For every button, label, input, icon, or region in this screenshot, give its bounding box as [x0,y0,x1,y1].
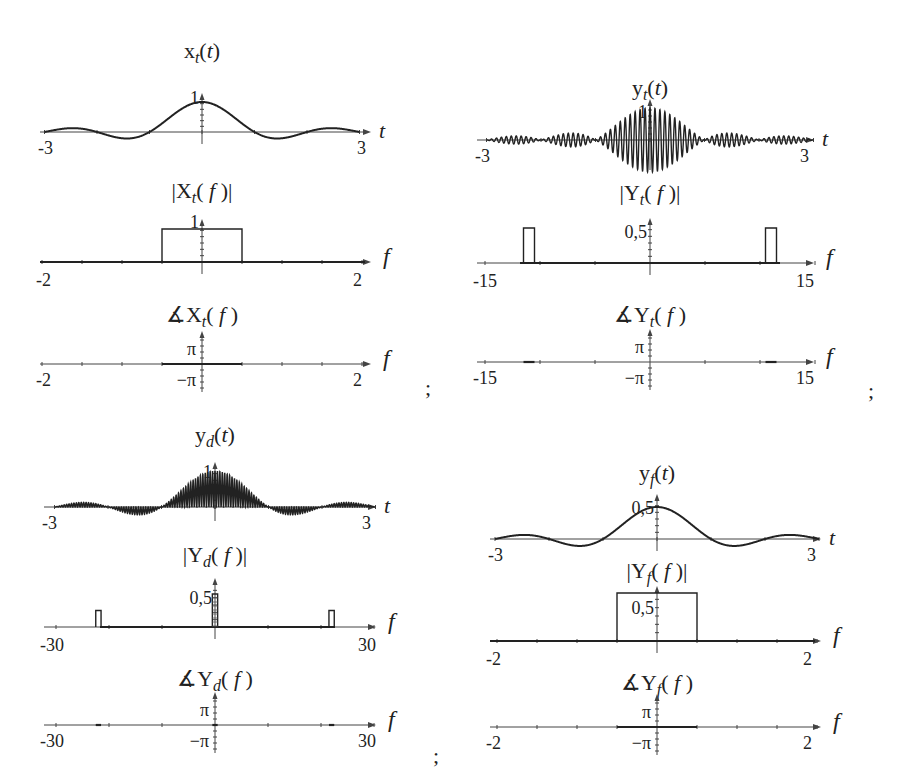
phase-neg-label: −π [632,733,651,753]
axis-arrow-icon [655,586,660,593]
axis-var-label: f [383,243,393,269]
range-max-label: 15 [796,271,814,291]
magnitude-plot-title: |Yd( f )| [183,542,247,570]
axis-arrow-icon [648,99,653,106]
axis-var-label: t [384,493,391,518]
axis-arrow-icon [648,329,653,336]
axis-arrow-icon [368,722,376,728]
magnitude-plot-title: |Yt( f )| [620,180,681,208]
range-max-label: 3 [362,513,371,533]
axis-var-label: t [379,118,386,143]
axis-var-label: f [383,345,393,371]
range-max-label: 30 [358,635,376,655]
range-min-label: -3 [38,138,53,158]
range-min-label: -2 [486,733,501,753]
phase-pos-label: π [642,702,651,722]
phase-plot-title: ∡Yd( f ) [177,666,253,694]
peak-value-label: 1 [638,102,647,122]
axis-arrow-icon [363,129,371,135]
separator-semicolon: ; [433,743,439,768]
axis-arrow-icon [368,624,376,630]
peak-value-label: 1 [190,88,199,108]
axis-var-label: f [826,244,836,270]
axis-arrow-icon [655,494,660,501]
axis-arrow-icon [213,462,218,469]
range-max-label: 2 [353,370,362,390]
phase-plot-title: ∡Yt( f ) [614,302,686,330]
peak-value-label: 0,5 [632,598,655,618]
range-max-label: 2 [803,733,812,753]
range-min-label: -2 [36,370,51,390]
separator-semicolon: ; [425,375,431,400]
axis-var-label: f [388,706,398,732]
range-min-label: -2 [36,270,51,290]
axis-arrow-icon [200,331,205,338]
range-max-label: 3 [357,138,366,158]
time-plot-title: yf(t) [639,460,675,489]
range-min-label: -3 [475,146,490,166]
separator-semicolon: ; [868,378,874,403]
spectrum-pulse [96,611,101,628]
panel-yt: yt(t)1-33t|Yt( f )|0,5-1515f∡Yt( f )π−π-… [473,75,874,403]
range-max-label: 30 [358,731,376,751]
range-max-label: 2 [353,270,362,290]
axis-arrow-icon [648,218,653,225]
range-min-label: -15 [473,368,497,388]
phase-pos-label: π [635,337,644,357]
range-max-label: 2 [803,649,812,669]
peak-value-label: 1 [190,212,199,232]
peak-value-label: 1 [203,462,212,482]
phase-neg-label: −π [625,368,644,388]
time-plot-title: yd(t) [195,422,235,450]
phase-pos-label: π [200,700,209,720]
range-max-label: 3 [807,545,816,565]
spectrum-pulse [766,228,777,263]
phase-plot-title: ∡Xt( f ) [166,302,238,330]
axis-arrow-icon [200,219,205,226]
spectrum-pulse [329,611,334,628]
range-max-label: 15 [796,368,814,388]
panel-yd: yd(t)1-33t|Yd( f )|0,5-3030f∡Yd( f )π−π-… [40,422,439,768]
peak-value-label: 0,5 [625,222,648,242]
axis-arrow-icon [200,93,205,100]
phase-pos-label: π [187,339,196,359]
panel-yf: yf(t)0,5-33t|Yf( f )|0,5-22f∡Yf( f )π−π-… [486,460,843,755]
range-min-label: -2 [486,649,501,669]
time-plot-title: yt(t) [632,75,668,103]
axis-arrow-icon [806,359,814,365]
magnitude-plot-title: |Xt( f )| [172,178,233,206]
axis-var-label: f [833,622,843,648]
range-min-label: -15 [473,271,497,291]
phase-neg-label: −π [190,731,209,751]
range-max-label: 3 [800,146,809,166]
panel-xt: xt(t)1-33t|Xt( f )|1-22f∡Xt( f )π−π-22f; [36,38,431,400]
axis-arrow-icon [363,361,371,367]
range-min-label: -3 [488,545,503,565]
axis-var-label: f [833,708,843,734]
axis-arrow-icon [806,260,814,266]
axis-var-label: t [829,525,836,550]
range-min-label: -3 [42,513,57,533]
axis-var-label: f [826,343,836,369]
axis-var-label: f [388,608,398,634]
magnitude-plot-title: |Yf( f )| [627,558,688,587]
time-plot-title: xt(t) [184,38,220,66]
axis-arrow-icon [213,578,218,585]
phase-neg-label: −π [177,370,196,390]
spectrum-pulse [524,228,535,263]
signal-figure: xt(t)1-33t|Xt( f )|1-22f∡Xt( f )π−π-22f;… [0,0,897,783]
range-min-label: -30 [40,731,64,751]
peak-value-label: 0,5 [632,498,655,518]
axis-var-label: t [822,126,829,151]
range-min-label: -30 [40,635,64,655]
peak-value-label: 0,5 [190,588,213,608]
